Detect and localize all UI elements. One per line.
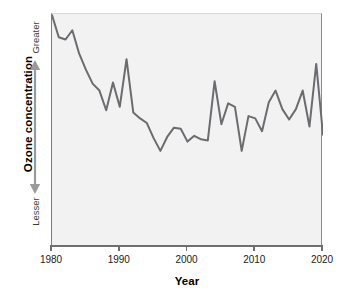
x-axis-tick-label-2010: 2010 xyxy=(227,254,281,265)
x-axis-tick-label-2020: 2020 xyxy=(295,254,343,265)
x-axis-tick-1980 xyxy=(50,245,52,251)
series-polyline xyxy=(52,15,323,151)
x-axis-tick-label-2000: 2000 xyxy=(160,254,214,265)
ozone-concentration-chart: Ozone concentration Greater Lesser 19801… xyxy=(0,0,343,297)
ozone-line-series xyxy=(52,14,323,246)
x-axis-tick-2010 xyxy=(253,245,255,251)
x-axis-tick-1990 xyxy=(118,245,120,251)
y-axis-low-label: Lesser xyxy=(30,179,41,245)
x-axis-tick-label-1990: 1990 xyxy=(92,254,146,265)
x-axis-tick-label-1980: 1980 xyxy=(24,254,78,265)
y-axis-scale: Greater Lesser xyxy=(24,14,46,238)
x-axis-tick-2020 xyxy=(321,245,323,251)
y-axis: Ozone concentration Greater Lesser xyxy=(0,0,51,250)
x-axis-title: Year xyxy=(51,275,323,287)
plot-area xyxy=(51,13,322,245)
double-headed-vertical-arrow-icon xyxy=(28,60,42,194)
x-axis-tick-2000 xyxy=(186,245,188,251)
